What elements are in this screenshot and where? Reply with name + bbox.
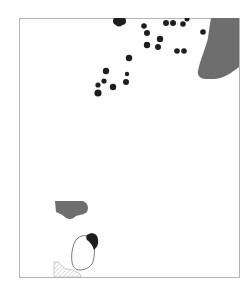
point-marker <box>123 79 129 85</box>
point-marker <box>144 42 150 48</box>
east-region <box>198 18 239 79</box>
map-canvas[interactable] <box>0 0 252 298</box>
point-marker <box>141 23 147 29</box>
point-marker <box>157 36 163 42</box>
point-marker <box>116 20 123 27</box>
point-marker <box>101 78 106 83</box>
point-marker <box>126 55 132 61</box>
map-point-markers <box>94 17 205 97</box>
point-marker <box>180 21 186 27</box>
point-marker <box>94 89 101 96</box>
point-marker <box>110 84 116 90</box>
point-marker <box>103 68 109 74</box>
southwest-region <box>55 201 88 219</box>
point-marker <box>163 20 169 26</box>
point-marker <box>200 29 206 35</box>
point-marker <box>170 20 176 26</box>
point-marker <box>144 30 150 36</box>
point-marker <box>125 72 129 76</box>
point-marker <box>181 48 187 54</box>
point-marker <box>95 82 100 87</box>
point-marker <box>155 44 161 50</box>
map-regions <box>54 18 239 277</box>
point-marker <box>174 48 180 54</box>
point-marker <box>185 17 190 22</box>
